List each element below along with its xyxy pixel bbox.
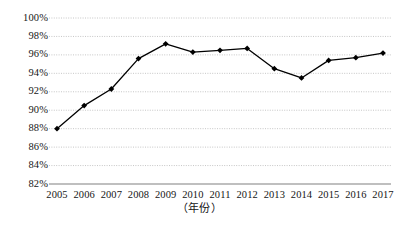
line-chart: 82%84%86%88%90%92%94%96%98%100% 20052006… <box>0 0 399 232</box>
x-axis-title: （年份） <box>0 199 399 215</box>
x-axis-tick-labels: 2005200620072008200920102011201220132014… <box>0 0 399 232</box>
